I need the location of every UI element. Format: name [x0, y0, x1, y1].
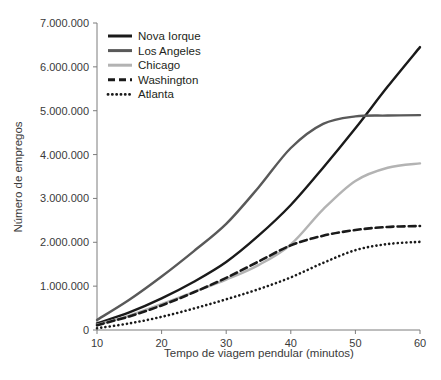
legend-label: Nova Iorque [138, 30, 201, 42]
line-chart: 01.000.0002.000.0003.000.0004.000.0005.0… [0, 0, 441, 380]
chart-figure: 01.000.0002.000.0003.000.0004.000.0005.0… [0, 0, 441, 380]
y-tick-label: 1.000.000 [40, 280, 89, 292]
x-tick-label: 10 [91, 337, 103, 349]
y-tick-label: 7.000.000 [40, 17, 89, 29]
y-tick-label: 4.000.000 [40, 149, 89, 161]
y-tick-label: 2.000.000 [40, 236, 89, 248]
legend-label: Los Angeles [138, 45, 201, 57]
x-axis-title: Tempo de viagem pendular (minutos) [164, 347, 354, 359]
legend-label: Atlanta [138, 88, 174, 100]
y-axis-title: Número de empregos [12, 121, 24, 232]
x-tick-label: 60 [414, 337, 426, 349]
legend-label: Washington [138, 74, 198, 86]
y-tick-label: 3.000.000 [40, 192, 89, 204]
legend-label: Chicago [138, 59, 180, 71]
y-tick-label: 6.000.000 [40, 61, 89, 73]
chart-background [0, 0, 441, 380]
y-tick-label: 5.000.000 [40, 105, 89, 117]
y-tick-label: 0 [83, 324, 89, 336]
